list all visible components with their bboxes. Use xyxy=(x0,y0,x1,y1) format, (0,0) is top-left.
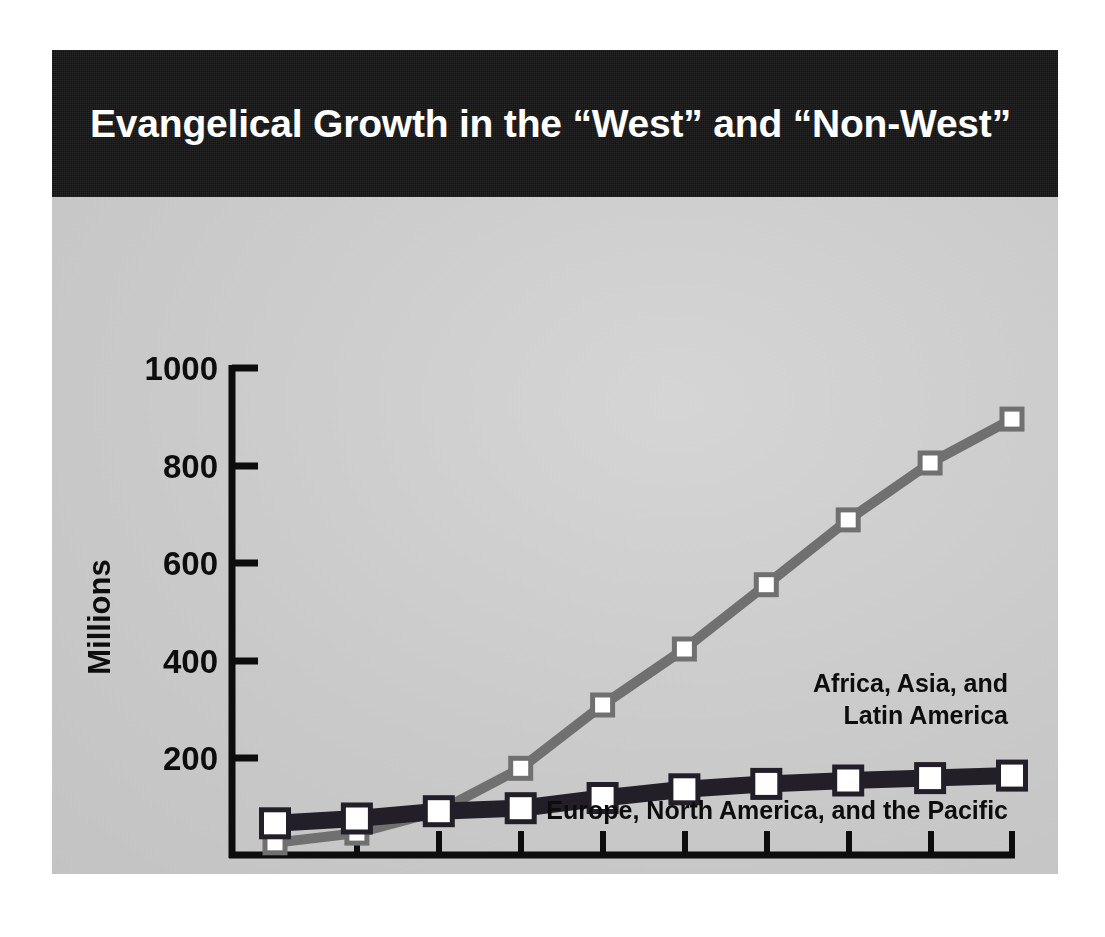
y-tick-label-200: 200 xyxy=(163,740,218,777)
marker-nonwest-2040 xyxy=(920,453,940,473)
series-label-west: Europe, North America, and the Pacific xyxy=(546,796,1008,824)
y-tick-label-400: 400 xyxy=(163,643,218,680)
marker-nonwest-1990 xyxy=(511,758,531,778)
marker-nonwest-2020 xyxy=(756,575,776,595)
page-title: Evangelical Growth in the “West” and “No… xyxy=(52,102,1011,146)
slide-title-bar: Evangelical Growth in the “West” and “No… xyxy=(52,50,1058,197)
x-axis-tick-labels: 1960 1970 1980 1990 2000 2010 2020 2030 … xyxy=(232,872,1032,874)
x-tick-label-1970: 1970 xyxy=(314,872,376,874)
marker-west-2050 xyxy=(999,762,1026,789)
x-tick-label-1980: 1980 xyxy=(396,872,458,874)
y-tick-label-600: 600 xyxy=(163,545,218,582)
series-label-nonwest-line1: Africa, Asia, and xyxy=(813,669,1008,697)
x-tick-label-2000: 2000 xyxy=(560,872,622,874)
series-label-nonwest-line2: Latin America xyxy=(844,701,1010,729)
x-tick-label-1960: 1960 xyxy=(232,872,294,874)
marker-west-2030 xyxy=(835,767,862,794)
x-tick-label-2020: 2020 xyxy=(724,872,786,874)
x-tick-label-2050: 2050 xyxy=(970,872,1032,874)
y-axis-tick-labels: 1000 800 600 400 200 xyxy=(145,350,218,777)
marker-nonwest-2050 xyxy=(1002,409,1022,429)
marker-west-2040 xyxy=(917,765,944,792)
marker-west-1980 xyxy=(425,798,452,825)
marker-nonwest-2010 xyxy=(674,639,694,659)
y-axis-title: Millions xyxy=(82,559,117,674)
marker-west-1970 xyxy=(343,805,370,832)
y-axis-ticks xyxy=(232,368,258,758)
y-tick-label-1000: 1000 xyxy=(145,350,218,387)
marker-nonwest-2030 xyxy=(838,510,858,530)
x-tick-label-2030: 2030 xyxy=(806,872,868,874)
marker-west-1990 xyxy=(507,795,534,822)
x-tick-label-2010: 2010 xyxy=(642,872,704,874)
chart-container: 1000 800 600 400 200 Millions xyxy=(52,197,1058,874)
x-tick-label-2040: 2040 xyxy=(888,872,950,874)
x-axis-ticks xyxy=(275,831,1012,855)
y-tick-label-800: 800 xyxy=(163,448,218,485)
marker-west-1960 xyxy=(262,810,289,837)
series-annotation-nonwest: Africa, Asia, and Latin America xyxy=(813,669,1009,729)
x-tick-label-1990: 1990 xyxy=(478,872,540,874)
slide-panel: Evangelical Growth in the “West” and “No… xyxy=(52,50,1058,874)
line-chart: 1000 800 600 400 200 Millions xyxy=(52,197,1058,874)
marker-nonwest-2000 xyxy=(593,695,613,715)
marker-west-2020 xyxy=(753,770,780,797)
